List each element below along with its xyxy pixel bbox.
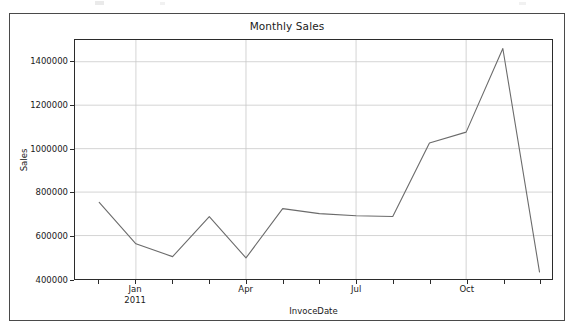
y-axis-tick-label: 1000000 [30, 144, 68, 154]
horizontal-gridlines [75, 62, 552, 236]
y-axis-tick-mark [70, 280, 74, 281]
x-axis-tick-label: Apr [238, 284, 253, 295]
chart-figure: Monthly Sales Sales 40000060000080000010… [9, 13, 565, 321]
x-axis-tick-label: Oct [459, 284, 474, 295]
plot-svg [75, 40, 552, 279]
chart-title: Monthly Sales [10, 20, 564, 32]
y-axis-tick-mark [70, 149, 74, 150]
y-axis-tick-label: 600000 [36, 231, 68, 241]
y-axis-tick-label: 1400000 [30, 56, 68, 66]
sales-line-series [99, 48, 539, 272]
x-axis-tick-label: Jul [351, 284, 361, 295]
y-axis-tick-mark [70, 192, 74, 193]
x-axis-label: InvoceDate [74, 306, 553, 316]
plot-area [74, 39, 553, 280]
page-top-artifacts [0, 0, 573, 12]
y-axis-tick-mark [70, 236, 74, 237]
x-axis-tick-label: Jan 2011 [124, 284, 146, 305]
y-axis-tick-label: 400000 [36, 275, 68, 285]
y-axis-tick-mark [70, 105, 74, 106]
y-axis-tick-labels: 400000600000800000100000012000001400000 [10, 39, 68, 280]
y-axis-tick-label: 800000 [36, 187, 68, 197]
y-axis-tick-label: 1200000 [30, 100, 68, 110]
y-axis-tick-mark [70, 61, 74, 62]
